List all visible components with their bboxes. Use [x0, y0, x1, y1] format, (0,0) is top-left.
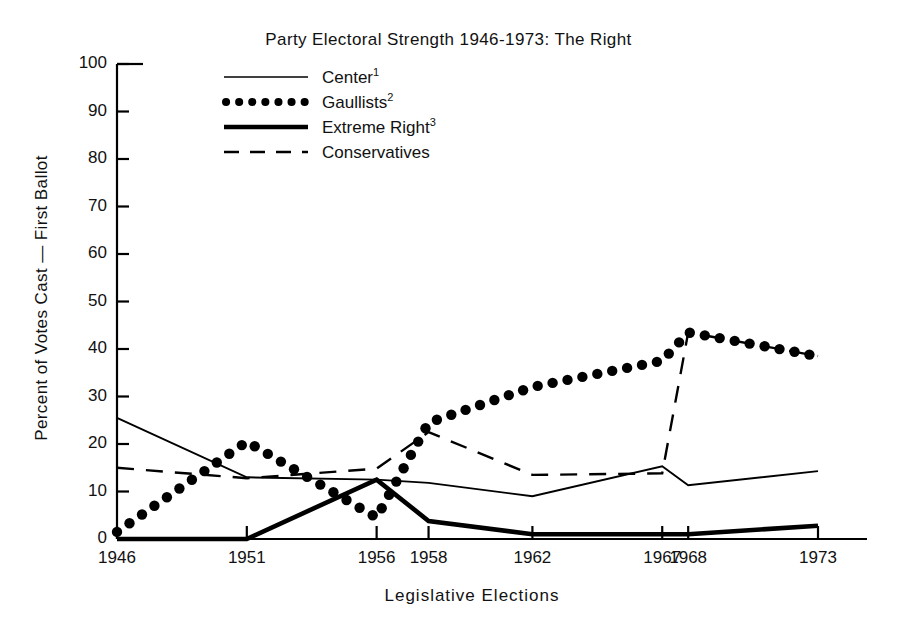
data-point-marker: [250, 441, 260, 451]
legend-swatch-solid-thin: [222, 66, 310, 88]
y-tick-label: 90: [61, 101, 107, 121]
data-point-marker: [674, 337, 684, 347]
data-point-marker: [398, 463, 408, 473]
data-point-marker: [413, 436, 423, 446]
data-point-marker: [212, 457, 222, 467]
x-axis-title: Legislative Elections: [117, 586, 827, 606]
legend-label-extreme-right: Extreme Right3: [322, 116, 436, 138]
data-point-marker: [162, 492, 172, 502]
data-point-marker: [276, 456, 286, 466]
y-tick-label: 40: [61, 338, 107, 358]
data-point-marker: [804, 349, 814, 359]
y-tick-label: 70: [61, 196, 107, 216]
data-point-marker: [475, 400, 485, 410]
x-tick-label: 1962: [497, 548, 567, 568]
data-point-marker: [446, 410, 456, 420]
data-point-marker: [504, 390, 514, 400]
x-tick-label: 1951: [212, 548, 282, 568]
data-point-marker: [137, 509, 147, 519]
data-point-marker: [354, 503, 364, 513]
y-tick-label: 0: [61, 528, 107, 548]
y-tick-label: 30: [61, 386, 107, 406]
y-tick-label: 20: [61, 433, 107, 453]
y-axis-title: Percent of Votes Cast — First Ballot: [32, 88, 52, 508]
data-point-marker: [315, 479, 325, 489]
y-tick-label: 100: [61, 53, 107, 73]
y-tick-label: 60: [61, 243, 107, 263]
data-point-marker: [112, 527, 122, 537]
data-point-marker: [391, 476, 401, 486]
data-point-marker: [149, 501, 159, 511]
data-point-marker: [406, 450, 416, 460]
data-point-marker: [562, 375, 572, 385]
x-tick-label: 1946: [82, 548, 152, 568]
x-tick-label: 1973: [783, 548, 853, 568]
data-point-marker: [289, 464, 299, 474]
data-point-marker: [607, 366, 617, 376]
data-point-marker: [432, 415, 442, 425]
data-point-marker: [533, 381, 543, 391]
data-point-marker: [664, 348, 674, 358]
x-tick-label: 1958: [394, 548, 464, 568]
data-point-marker: [652, 357, 662, 367]
data-point-marker: [187, 475, 197, 485]
data-point-marker: [592, 369, 602, 379]
data-point-marker: [547, 378, 557, 388]
legend-label-center: Center1: [322, 66, 379, 88]
data-point-marker: [637, 360, 647, 370]
data-point-marker: [124, 518, 134, 528]
x-tick-label: 1968: [653, 548, 723, 568]
data-series-group: [112, 328, 818, 540]
legend-swatch-dashed: [222, 141, 310, 163]
chart-title: Party Electoral Strength 1946-1973: The …: [0, 30, 897, 50]
legend-label-gaullists: Gaullists2: [322, 91, 393, 113]
legend-swatch-solid-thick: [222, 116, 310, 138]
data-point-marker: [622, 363, 632, 373]
data-point-marker: [377, 503, 387, 513]
legend-label-conservatives: Conservatives: [322, 141, 430, 163]
y-tick-label: 80: [61, 148, 107, 168]
data-point-marker: [237, 440, 247, 450]
series-gaullists: [112, 328, 815, 538]
data-point-marker: [460, 405, 470, 415]
y-tick-label: 10: [61, 481, 107, 501]
series-center: [117, 418, 818, 496]
data-point-marker: [263, 449, 273, 459]
data-point-marker: [224, 449, 234, 459]
data-point-marker: [489, 395, 499, 405]
data-point-marker: [577, 372, 587, 382]
plot-area: [0, 0, 897, 636]
data-point-marker: [368, 510, 378, 520]
chart-figure: Party Electoral Strength 1946-1973: The …: [0, 0, 897, 636]
data-point-marker: [174, 483, 184, 493]
data-point-marker: [518, 385, 528, 395]
legend-swatch-dotted: [222, 91, 310, 113]
y-tick-label: 50: [61, 291, 107, 311]
